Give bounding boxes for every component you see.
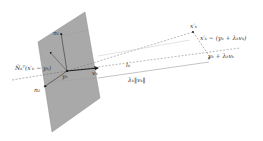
upper-solid-line: [98, 40, 190, 56]
label-residual: x′ₖ − (yₖ + λₖvₖ): [200, 34, 246, 41]
label-line-point: yₖ + λₖvₖ: [208, 52, 234, 59]
label-line: lₖ: [126, 61, 130, 68]
label-direction: vₖ: [92, 69, 98, 76]
label-projection: N̂ₖᵀ(x′ₖ − yₖ): [15, 64, 51, 71]
label-n2: n₂: [34, 86, 40, 93]
label-n1: n₁: [53, 29, 59, 36]
label-distance: λₖ‖vₖ‖: [128, 76, 146, 83]
distance-line: [98, 62, 209, 78]
label-origin: yₖ: [62, 72, 68, 79]
label-target-point: x′ₖ: [190, 22, 197, 29]
plane: [38, 12, 100, 132]
